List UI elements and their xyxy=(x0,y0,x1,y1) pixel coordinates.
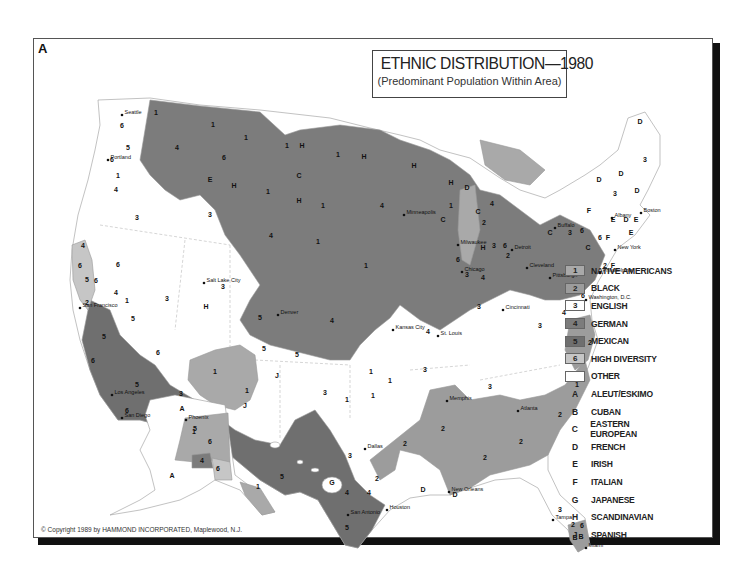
city-dot xyxy=(277,314,280,317)
region-code-label: J xyxy=(275,372,279,379)
legend-code: H xyxy=(565,512,585,522)
region-code-label: 4 xyxy=(367,489,371,496)
city-label: Atlanta xyxy=(521,405,539,411)
legend-item-cuban: B CUBAN xyxy=(565,403,675,421)
city-label: Cleveland xyxy=(530,262,554,268)
map-title: ETHNIC DISTRIBUTION—1980 xyxy=(381,54,559,74)
region-code-label: 5 xyxy=(280,473,284,480)
city-dot xyxy=(502,309,505,312)
legend-code: F xyxy=(565,477,585,487)
city-dot xyxy=(347,514,350,517)
map-subtitle: (Predominant Population Within Area) xyxy=(373,75,566,87)
region-code-label: 5 xyxy=(295,351,299,358)
legend-item-italian: F ITALIAN xyxy=(565,473,675,491)
region-code-label: 5 xyxy=(345,524,349,531)
region-code-label: 6 xyxy=(208,438,212,445)
legend-swatch: 6 xyxy=(565,353,585,364)
city-dot xyxy=(614,249,617,252)
region-code-label: C xyxy=(475,208,480,215)
legend-label: IRISH xyxy=(591,459,613,469)
region-code-label: 6 xyxy=(580,227,584,234)
city-label: San Antonio xyxy=(351,509,381,515)
region-code-label: C xyxy=(585,244,590,251)
region-code-label: 4 xyxy=(200,457,204,464)
region-code-label: 3 xyxy=(208,211,212,218)
region-code-label: 3 xyxy=(323,389,327,396)
legend-item-german: 4 GERMAN xyxy=(565,315,675,333)
region-code-label: 4 xyxy=(481,274,485,281)
region-code-label: 2 xyxy=(519,438,523,445)
legend-label: ALEUT/ESKIMO xyxy=(591,389,653,399)
region-code-label: 1 xyxy=(266,188,270,195)
region-code-label: 1 xyxy=(321,202,325,209)
region-code-label: 1 xyxy=(256,483,260,490)
copyright-notice: © Copyright 1989 by HAMMOND INCORPORATED… xyxy=(41,526,242,533)
legend-code: J xyxy=(565,530,585,540)
region-code-label: 6 xyxy=(598,234,602,241)
region-code-label: 1 xyxy=(285,142,289,149)
city-dot xyxy=(437,335,440,338)
city-label: San Francisco xyxy=(83,302,118,308)
region-code-label: E xyxy=(208,176,213,183)
region-code-label: 6 xyxy=(120,122,124,129)
region-code-label: 2 xyxy=(441,425,445,432)
region-code-label: H xyxy=(361,153,366,160)
legend-code: E xyxy=(565,459,585,469)
region-code-label: E xyxy=(629,229,634,236)
region-code-label: 1 xyxy=(213,368,217,375)
legend-swatch: 5 xyxy=(565,336,585,347)
city-label: Memphis xyxy=(450,395,473,401)
legend-item-spanish: J SPANISH xyxy=(565,526,675,544)
region-code-label: C xyxy=(440,216,445,223)
city-dot xyxy=(111,394,114,397)
city-dot xyxy=(526,267,529,270)
legend-label: BLACK xyxy=(591,283,620,293)
legend-code: B xyxy=(565,407,585,417)
region-code-label: 3 xyxy=(568,229,572,236)
region-code-label: 4 xyxy=(380,202,384,209)
city-dot xyxy=(511,249,514,252)
city-label: Portland xyxy=(111,154,132,160)
legend-item-high-diversity: 6 HIGH DIVERSITY xyxy=(565,350,675,368)
legend-code: G xyxy=(565,495,585,505)
region-code-label: 6 xyxy=(456,256,460,263)
legend-label: HIGH DIVERSITY xyxy=(591,354,657,364)
region-code-label: 1 xyxy=(125,297,129,304)
legend-item-japanese: G JAPANESE xyxy=(565,491,675,509)
region-code-label: D xyxy=(420,486,425,493)
city-label: Salt Lake City xyxy=(207,277,241,283)
city-label: Houston xyxy=(390,504,411,510)
city-dot xyxy=(549,277,552,280)
city-label: Boston xyxy=(644,207,661,213)
region-code-label: H xyxy=(231,182,236,189)
region-code-label: H xyxy=(203,303,208,310)
region-code-label: C xyxy=(296,172,301,179)
region-code-label: 2 xyxy=(483,454,487,461)
region-code-label: 5 xyxy=(85,276,89,283)
region-code-label: 1 xyxy=(211,121,215,128)
city-label: Minneapolis xyxy=(407,209,437,215)
city-dot xyxy=(554,227,557,230)
region-code-label: D xyxy=(452,491,457,498)
city-label: New York xyxy=(618,244,641,250)
city-label: Kansas City xyxy=(396,324,426,330)
city-dot xyxy=(448,491,451,494)
city-dot xyxy=(79,307,82,310)
region-code-label: 3 xyxy=(135,214,139,221)
legend-label: CUBAN xyxy=(591,407,621,417)
city-label: Detroit xyxy=(515,244,532,250)
region-code-label: 1 xyxy=(371,392,375,399)
legend-label: SPANISH xyxy=(591,530,627,540)
region-code-label: 5 xyxy=(126,144,130,151)
region-code-label: 3 xyxy=(488,383,492,390)
legend-item-black: 2 BLACK xyxy=(565,280,675,298)
region-code-label: 6 xyxy=(156,349,160,356)
region-code-label: 3 xyxy=(477,303,481,310)
region-code-label: 4 xyxy=(426,328,430,335)
region-code-label: D xyxy=(464,184,469,191)
city-dot xyxy=(203,282,206,285)
region-code-label: 1 xyxy=(388,377,392,384)
legend-label: FRENCH xyxy=(591,442,625,452)
legend-label: EASTERN EUROPEAN xyxy=(590,419,675,439)
city-label: Phoenix xyxy=(189,414,209,420)
